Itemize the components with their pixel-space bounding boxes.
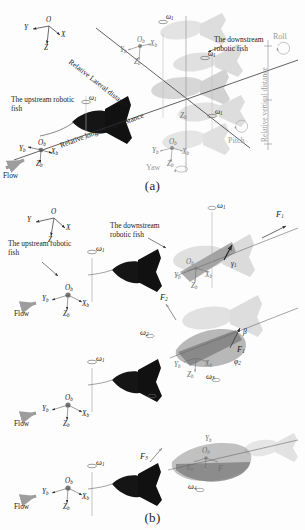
global-frame-b — [36, 218, 65, 236]
pitch-label: Pitch — [228, 136, 244, 145]
body-x-upper-label-a: Xb — [150, 40, 157, 48]
flow-label-b-2: Flow — [14, 420, 29, 429]
omega-label-b-row2-extra: ω3 — [206, 372, 214, 382]
flow-arrow-a — [6, 160, 24, 168]
panel-a: O Y X Z The upstream robotic fish The do… — [0, 0, 305, 195]
body-z-upper-label-a: Zb — [134, 58, 141, 66]
row-2-group — [88, 295, 299, 412]
body-y-label-b2: Yb — [42, 405, 49, 413]
figure-root: O Y X Z The upstream robotic fish The do… — [0, 0, 305, 530]
force-label-b-row3-F3: F3 — [140, 452, 148, 462]
downstream-z-label-b2: Zb — [187, 371, 194, 379]
global-x-label-a: X — [61, 31, 65, 39]
body-x-label-b3: Xb — [82, 493, 89, 501]
body-origin-label-a: Ob — [38, 139, 46, 147]
body-y-upper-label-a: Yb — [120, 46, 127, 54]
panel-b: O Y X Z The upstream robotic fish The do… — [0, 200, 305, 530]
downstream-y-label-b3: Yb — [205, 435, 212, 443]
body-x-lower-label-a: Xb — [182, 148, 189, 156]
global-x-label-b: X — [66, 224, 70, 232]
downstream-fish-label-a: The downstream robotic fish — [214, 36, 282, 53]
global-y-label-a: Y — [24, 24, 28, 32]
body-y-label-a: Yb — [19, 145, 26, 153]
angle-label-b-row2-phi2: φ2 — [234, 358, 241, 367]
global-origin-label-b: O — [51, 208, 56, 216]
body-y-label-b1: Yb — [42, 295, 49, 303]
body-z-lower-label-a: Zb — [167, 160, 174, 168]
global-y-label-b: Y — [27, 216, 31, 224]
omega-label-a-2: ω1 — [89, 94, 97, 102]
omega-label-b-row2-upstream: ω1 — [96, 354, 104, 364]
body-z-label-a: Zb — [36, 160, 43, 168]
row-3-group — [88, 394, 299, 516]
omega-label-b-row3-extra: ω3 — [143, 388, 151, 398]
angle-label-b-row2-beta: β — [243, 328, 247, 337]
downstream-origin-label-b1: Ob — [186, 258, 194, 266]
global-origin-label-a: O — [46, 16, 51, 24]
body-origin-label-b2: Ob — [65, 394, 73, 402]
body-z-center-label-a: Zb — [180, 112, 187, 120]
yaw-label: Yaw — [146, 163, 160, 172]
upstream-fish-label-a: The upstream robotic fish — [11, 96, 75, 113]
omega-label-b-row3-upstream: ω1 — [96, 458, 104, 468]
body-x-label-a: Xb — [51, 148, 58, 156]
downstream-y-label-b2: Yb — [174, 361, 181, 369]
body-z-label-b1: Zb — [63, 310, 70, 318]
body-origin-lower-label-a: Ob — [169, 138, 177, 146]
omega-label-a-4: ω1 — [215, 108, 223, 116]
angle-label-b-row1-gamma1: γ1 — [231, 260, 237, 269]
downstream-x-label-b2: Xb — [205, 360, 212, 368]
omega-label-b-row3-downstream: ω4 — [188, 482, 196, 492]
omega-label-b-row2-downstream: ω2 — [140, 328, 148, 338]
body-frame-upstream-b3 — [52, 485, 82, 503]
global-frame-a — [33, 26, 60, 44]
downstream-x-label-b1: Xb — [205, 271, 212, 279]
downstream-fish-label-b: The downstream robotic fish — [110, 222, 178, 239]
omega-label-b-row1-downstream: ω1 — [217, 201, 225, 211]
global-z-label-a: Z — [44, 44, 48, 52]
omega-label-a-3: ω1 — [208, 50, 216, 58]
flow-label-b-1: Flow — [14, 310, 29, 319]
body-x-label-b2: Xb — [82, 410, 89, 418]
downstream-z-label-b1: Zb — [191, 282, 198, 290]
body-y-lower-label-a: Yb — [152, 147, 159, 155]
body-origin-label-b3: Ob — [65, 477, 73, 485]
force-label-b-row2-F1: F1 — [237, 345, 245, 355]
force-label-b-row1-F1: F1 — [276, 210, 284, 220]
downstream-y-label-b1: Yb — [174, 272, 181, 280]
force-label-b-row3-F: F — [218, 464, 223, 474]
omega-label-a-1: ω1 — [166, 13, 174, 21]
upstream-fish-label-b: The upstream robotic fish — [8, 240, 74, 257]
panel-a-caption: (a) — [0, 178, 305, 194]
downstream-x-label-b3: Xb — [186, 464, 193, 472]
relative-vertical-distance-label: Relative vertical distance — [261, 67, 270, 142]
body-origin-label-b1: Ob — [65, 284, 73, 292]
body-x-label-b1: Xb — [82, 300, 89, 308]
panel-b-caption: (b) — [0, 510, 305, 526]
omega-label-b-row1-upstream: ω1 — [96, 244, 104, 254]
body-frame-upstream-b2 — [52, 402, 82, 420]
force-label-b-row2-F2: F2 — [160, 293, 168, 303]
body-z-label-b2: Zb — [63, 420, 70, 428]
downstream-origin-label-b3: Ob — [202, 447, 210, 455]
body-origin-upper-label-a: Ob — [137, 36, 145, 44]
body-y-label-b3: Yb — [42, 488, 49, 496]
body-frame-upstream-b1 — [52, 292, 82, 310]
roll-label: Roll — [273, 32, 287, 41]
